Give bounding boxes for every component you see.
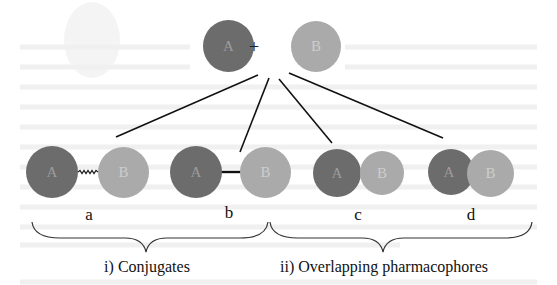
branch-line-d xyxy=(289,73,443,138)
circle-label: A xyxy=(191,164,202,181)
connector-lines xyxy=(0,0,557,285)
circle-label: A xyxy=(47,164,58,181)
circle-label: B xyxy=(118,164,128,181)
variant-b-circle-a: A xyxy=(170,146,222,198)
circle-label: A xyxy=(444,164,455,181)
brace-overlapping xyxy=(270,222,532,252)
variant-label-b: b xyxy=(225,204,234,221)
variant-a-circle-a: A xyxy=(26,146,78,198)
top-circle-b: B xyxy=(291,21,341,72)
circle-label: A xyxy=(332,165,343,182)
caption-overlapping-pharmacophores: ii) Overlapping pharmacophores xyxy=(280,259,488,275)
circle-label: B xyxy=(377,165,387,182)
caption-conjugates: i) Conjugates xyxy=(104,259,190,275)
variant-b-circle-b: B xyxy=(240,147,291,198)
branch-line-a xyxy=(116,75,258,137)
branch-line-b xyxy=(240,78,269,152)
variant-c-circle-a: A xyxy=(313,149,361,197)
brace-conjugates xyxy=(32,222,268,252)
pharmacophore-diagram: A + B A B a A B b A B c A B d i) Conjuga… xyxy=(0,0,557,285)
wavy-linker xyxy=(78,171,98,174)
variant-d-circle-b: B xyxy=(467,150,514,197)
variant-label-c: c xyxy=(354,206,362,223)
variant-label-d: d xyxy=(467,206,476,223)
circle-label: B xyxy=(260,164,270,181)
variant-c-circle-b: B xyxy=(360,151,404,195)
circle-label: B xyxy=(485,165,495,182)
circle-label: B xyxy=(311,38,321,55)
variant-a-circle-b: B xyxy=(98,147,149,198)
top-circle-a: A xyxy=(203,20,254,72)
variant-label-a: a xyxy=(85,206,93,223)
plus-sign: + xyxy=(249,37,259,58)
circle-label: A xyxy=(223,38,234,55)
